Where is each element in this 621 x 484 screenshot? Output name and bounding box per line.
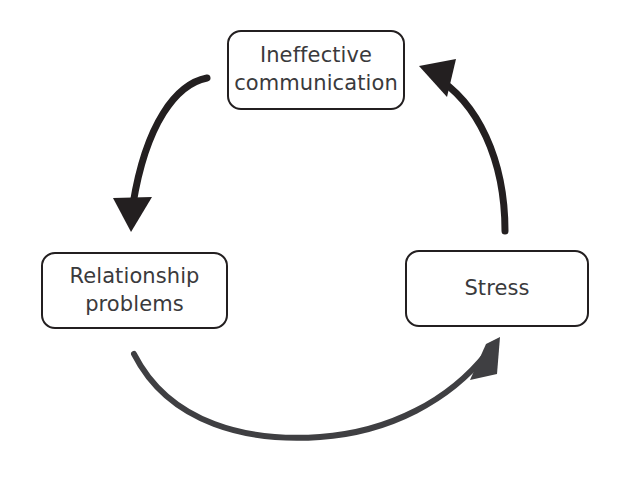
arrow-shaft-right: [434, 76, 505, 231]
node-stress: Stress: [405, 250, 589, 327]
node-ineffective-communication-label: Ineffective communication: [228, 42, 404, 97]
arrow-shaft-left: [133, 78, 207, 204]
node-stress-label: Stress: [458, 275, 535, 303]
arrowhead-bottom: [470, 337, 500, 380]
arrow-shaft-bottom: [134, 353, 487, 438]
node-ineffective-communication: Ineffective communication: [227, 30, 405, 110]
cycle-diagram-canvas: Ineffective communication Relationship p…: [0, 0, 621, 484]
arrow-ineffective-to-relationship: [113, 78, 207, 232]
arrow-relationship-to-stress: [134, 337, 500, 438]
arrowhead-left: [113, 197, 152, 232]
node-relationship-problems-label: Relationship problems: [63, 263, 205, 318]
arrow-stress-to-ineffective: [419, 59, 505, 231]
node-relationship-problems: Relationship problems: [41, 252, 228, 329]
